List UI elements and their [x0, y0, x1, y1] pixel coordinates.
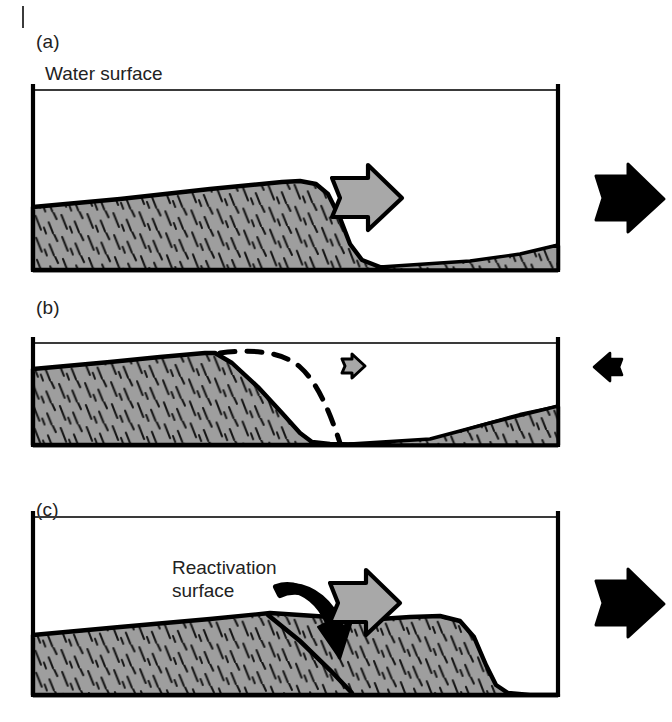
panel-label-a: (a): [36, 32, 60, 51]
bed-shear-arrow-c: [596, 569, 664, 637]
page-margin-tick: [22, 6, 24, 28]
next-dune-wedge-a: [380, 245, 558, 270]
flow-arrow-b: [342, 354, 365, 378]
panel-c: [0, 495, 672, 710]
sediment-body-a: [33, 181, 558, 270]
sediment-body-c: [33, 613, 558, 695]
bed-shear-arrow-a: [596, 164, 664, 232]
bed-shear-arrow-b: [594, 353, 622, 381]
panel-a: [0, 60, 672, 285]
panel-b: [0, 295, 672, 460]
figure-root: (a) Water surface: [0, 0, 672, 722]
